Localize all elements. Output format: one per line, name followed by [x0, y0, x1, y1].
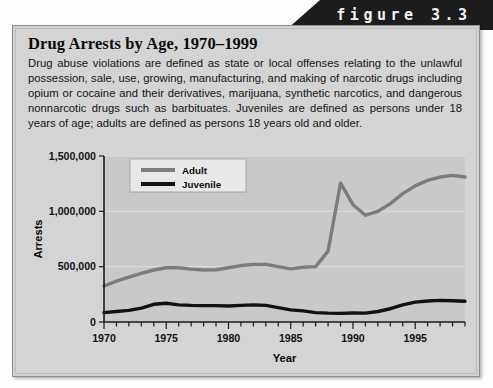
- x-tick-label: 1980: [217, 332, 241, 344]
- arrests-line-chart: 0500,0001,000,0001,500,00019701975198019…: [22, 147, 474, 375]
- figure-description: Drug abuse violations are defined as sta…: [28, 56, 462, 131]
- legend-label-adult: Adult: [182, 165, 208, 176]
- figure-screenshot: figure 3.3 Drug Arrests by Age, 1970–199…: [0, 0, 493, 388]
- y-tick-label: 500,000: [58, 260, 96, 272]
- y-tick-label: 0: [90, 316, 96, 328]
- x-tick-label: 1970: [92, 332, 116, 344]
- legend-label-juvenile: Juvenile: [182, 179, 222, 190]
- chart-svg: 0500,0001,000,0001,500,00019701975198019…: [22, 147, 474, 375]
- x-tick-label: 1990: [341, 332, 365, 344]
- y-tick-label: 1,500,000: [49, 150, 96, 162]
- figure-panel-inner: Drug Arrests by Age, 1970–1999 Drug abus…: [15, 28, 477, 374]
- y-axis-title: Arrests: [32, 219, 44, 258]
- x-axis-title: Year: [273, 352, 297, 364]
- y-tick-label: 1,000,000: [49, 205, 96, 217]
- x-tick-label: 1975: [154, 332, 178, 344]
- figure-panel: Drug Arrests by Age, 1970–1999 Drug abus…: [12, 25, 480, 377]
- figure-title: Drug Arrests by Age, 1970–1999: [28, 34, 258, 54]
- x-tick-label: 1995: [403, 332, 427, 344]
- x-tick-label: 1985: [279, 332, 303, 344]
